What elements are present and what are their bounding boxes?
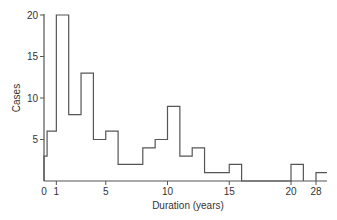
y-tick-label: 5: [32, 134, 38, 145]
x-tick-label: 15: [224, 186, 236, 197]
x-axis-ticks: 01510152028: [41, 181, 322, 197]
x-tick-label: 28: [310, 186, 322, 197]
y-axis-title: Cases: [11, 84, 22, 112]
x-tick-label: 20: [285, 186, 297, 197]
histogram-chart: 5101520 01510152028 Cases Duration (year…: [0, 0, 337, 220]
histogram-outline: [44, 15, 303, 181]
histogram-bars: [44, 15, 327, 181]
y-tick-label: 10: [27, 93, 39, 104]
x-tick-label: 5: [103, 186, 109, 197]
y-axis-ticks: 5101520: [27, 10, 44, 146]
x-axis-title: Duration (years): [152, 200, 224, 211]
y-tick-label: 20: [27, 10, 39, 21]
histogram-bar-28: [316, 173, 327, 181]
y-tick-label: 15: [27, 51, 39, 62]
x-tick-label: 0: [41, 186, 47, 197]
x-tick-label: 10: [162, 186, 174, 197]
x-tick-label: 1: [54, 186, 60, 197]
